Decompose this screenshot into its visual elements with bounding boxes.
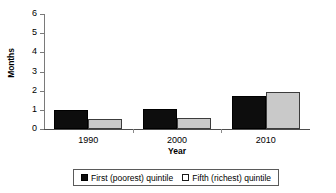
y-axis-tick: 4 bbox=[40, 52, 44, 53]
bar-2000-series-1 bbox=[177, 118, 211, 129]
y-axis-tick: 2 bbox=[40, 91, 44, 92]
bar-1990-series-1 bbox=[88, 119, 122, 129]
y-axis-title: Months bbox=[6, 38, 16, 88]
outlined-white-square-icon bbox=[182, 174, 189, 181]
y-axis-line bbox=[44, 14, 45, 130]
bar-1990-series-0 bbox=[54, 110, 88, 129]
x-axis-tick-label: 2000 bbox=[133, 135, 222, 146]
x-axis-separator bbox=[221, 129, 222, 133]
y-axis-tick-label: 2 bbox=[17, 85, 37, 95]
legend-item-1: Fifth (richest) quintile bbox=[182, 173, 271, 183]
filled-black-square-icon bbox=[81, 174, 88, 181]
x-axis-tick-label: 1990 bbox=[44, 135, 133, 146]
y-axis-tick-label: 5 bbox=[17, 27, 37, 37]
y-axis-tick-label: 6 bbox=[17, 8, 37, 18]
y-axis-tick: 1 bbox=[40, 110, 44, 111]
bar-2000-series-0 bbox=[143, 109, 177, 129]
x-axis-line bbox=[44, 129, 310, 130]
y-axis-tick-label: 0 bbox=[17, 123, 37, 133]
y-axis-tick: 0 bbox=[40, 129, 44, 130]
legend-item-0: First (poorest) quintile bbox=[81, 173, 173, 183]
x-axis-title: Year bbox=[44, 146, 310, 156]
x-axis-tick-label: 2010 bbox=[221, 135, 310, 146]
legend-item-label: First (poorest) quintile bbox=[91, 173, 173, 183]
legend-item-label: Fifth (richest) quintile bbox=[192, 173, 271, 183]
chart-legend: First (poorest) quintileFifth (richest) … bbox=[73, 169, 279, 186]
y-axis-tick: 3 bbox=[40, 72, 44, 73]
y-axis-tick-label: 4 bbox=[17, 46, 37, 56]
y-axis-tick-label: 1 bbox=[17, 104, 37, 114]
bar-2010-series-0 bbox=[232, 96, 266, 129]
y-axis-tick-label: 3 bbox=[17, 66, 37, 76]
y-axis-tick: 6 bbox=[40, 14, 44, 15]
bar-2010-series-1 bbox=[266, 92, 300, 129]
plot-area: 0123456 199020002010 bbox=[44, 14, 310, 129]
x-axis-separator bbox=[133, 129, 134, 133]
bar-chart: Months 0123456 199020002010 Year First (… bbox=[0, 0, 336, 193]
y-axis-tick: 5 bbox=[40, 33, 44, 34]
